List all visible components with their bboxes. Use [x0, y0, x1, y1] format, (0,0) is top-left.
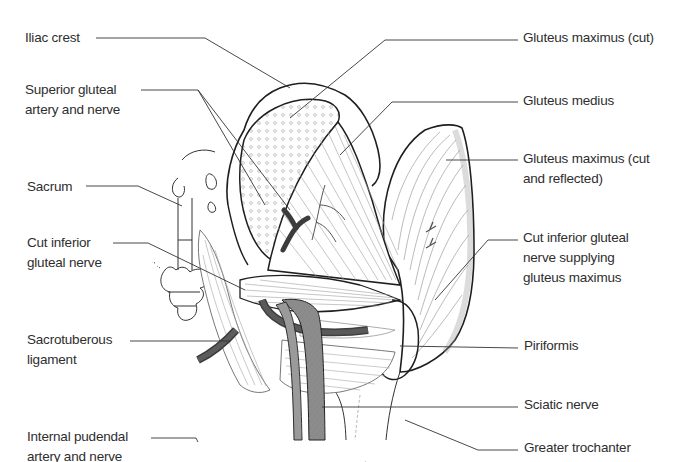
label-sciatic-nerve-upper: Sciatic nerve: [524, 396, 599, 413]
label-line: Cut inferior gluteal: [523, 229, 629, 246]
label-gluteus-maximus-cut: Gluteus maximus (cut): [523, 29, 654, 46]
label-line: Cut inferior: [27, 234, 102, 251]
label-line: artery and nerve: [25, 101, 120, 118]
label-line: Iliac crest: [25, 29, 80, 46]
label-gluteus-maximus-cut-and-reflected: Gluteus maximus (cut and reflected): [523, 150, 650, 187]
label-line: Internal pudendal: [27, 428, 128, 445]
label-line: Greater trochanter: [524, 439, 631, 456]
label-line: Gluteus maximus (cut): [523, 29, 654, 46]
label-superior-gluteal-artery-and-nerve: Superior gluteal artery and nerve: [25, 81, 120, 118]
label-internal-pudendal-artery-and-nerve: Internal pudendal artery and nerve: [27, 428, 128, 462]
label-iliac-crest: Iliac crest: [25, 29, 80, 46]
label-line: artery and nerve: [27, 448, 128, 462]
label-line: Sacrotuberous: [27, 331, 112, 348]
anatomy-diagram: Iliac crest Superior gluteal artery and …: [0, 0, 688, 462]
label-line: gluteus maximus: [523, 269, 629, 286]
label-sacrum: Sacrum: [27, 178, 72, 195]
label-line: Sacrum: [27, 178, 72, 195]
label-line: Gluteus medius: [523, 92, 614, 109]
label-line: Gluteus maximus (cut: [523, 150, 650, 167]
label-line: Piriformis: [524, 337, 578, 354]
label-line: and reflected): [523, 170, 650, 187]
label-sacrotuberous-ligament: Sacrotuberous ligament: [27, 331, 112, 368]
label-line: gluteal nerve: [27, 254, 102, 271]
label-cut-inferior-gluteal-nerve: Cut inferior gluteal nerve: [27, 234, 102, 271]
label-greater-trochanter: Greater trochanter: [524, 439, 631, 456]
label-gluteus-medius: Gluteus medius: [523, 92, 614, 109]
label-piriformis: Piriformis: [524, 337, 578, 354]
label-line: ligament: [27, 351, 112, 368]
label-cut-inferior-gluteal-nerve-supplying-gluteus-maximus: Cut inferior gluteal nerve supplying glu…: [523, 229, 629, 286]
gluteus-maximus-reflected-shape: [383, 125, 474, 372]
sacrotuberous-ligament-shape: [198, 230, 270, 392]
label-line: nerve supplying: [523, 249, 629, 266]
label-line: Superior gluteal: [25, 81, 120, 98]
label-line: Sciatic nerve: [524, 396, 599, 413]
